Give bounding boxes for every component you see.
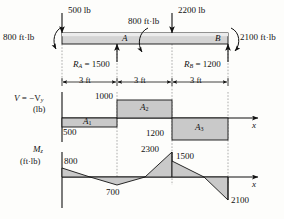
dimension-label-seg1: 3 ft <box>79 76 91 85</box>
shear-value-500: 500 <box>63 128 77 137</box>
reaction-RA-subscript: A <box>79 63 83 69</box>
shear-title-sub: y <box>41 97 44 103</box>
reaction-RA-value: = 1500 <box>84 59 109 69</box>
shear-value-1000: 1000 <box>95 92 113 101</box>
moment-value-2100: 2100 <box>231 196 249 205</box>
moment-value-2300: 2300 <box>141 145 159 154</box>
moment-axis-label-x: x <box>252 180 256 189</box>
couple-label-left-800: 800 ft·lb <box>3 33 34 42</box>
dimension-label-seg3: 3 ft <box>190 76 202 85</box>
shear-A1-sub: 1 <box>89 120 92 126</box>
couple-arc-right-2100 <box>231 28 239 51</box>
beam-point-label-B: B <box>215 34 221 43</box>
shear-title: V = −Vy <box>14 94 43 103</box>
shear-area-label-A1: A1 <box>83 117 92 126</box>
moment-area-neg-1 <box>90 177 145 185</box>
shear-title-eq: = −V <box>22 93 41 103</box>
moment-area-neg-2 <box>204 177 228 200</box>
moment-area-pos-start <box>62 168 90 177</box>
moment-value-1500: 1500 <box>176 152 194 161</box>
shear-value-1200: 1200 <box>146 129 164 138</box>
shear-units-label: (lb) <box>33 105 45 114</box>
load-label-500lb: 500 lb <box>68 6 91 15</box>
shear-area-label-A3: A3 <box>195 123 204 132</box>
reaction-RB-subscript: B <box>190 63 194 69</box>
moment-value-800: 800 <box>64 157 78 166</box>
reaction-label-RA: RA = 1500 <box>73 60 110 69</box>
couple-label-mid-800: 800 ft·lb <box>128 17 159 26</box>
shear-title-V: V <box>14 93 20 103</box>
beam-member <box>62 33 228 44</box>
beam-point-label-A: A <box>122 34 128 43</box>
couple-label-right-2100: 2100 ft·lb <box>240 33 276 42</box>
moment-units-label: (ft·lb) <box>20 157 40 166</box>
moment-title: Mz <box>33 145 43 154</box>
shear-A2-sub: 2 <box>146 106 149 112</box>
reaction-label-RB: RB = 1200 <box>184 60 221 69</box>
load-label-2200lb: 2200 lb <box>178 6 205 15</box>
moment-area-pos-2 <box>145 152 172 177</box>
moment-title-sub: z <box>41 148 43 154</box>
moment-diagram-group <box>62 152 258 208</box>
moment-value-700: 700 <box>106 188 120 197</box>
shear-A3-sub: 3 <box>201 126 204 132</box>
moment-title-M: M <box>33 144 41 154</box>
shear-area-label-A2: A2 <box>140 103 149 112</box>
dimension-label-seg2: 3 ft <box>134 76 146 85</box>
shear-axis-label-x: x <box>252 121 256 130</box>
reaction-RB-value: = 1200 <box>195 59 220 69</box>
couple-arc-left-800 <box>54 27 62 49</box>
moment-area-pos-3 <box>172 161 204 177</box>
